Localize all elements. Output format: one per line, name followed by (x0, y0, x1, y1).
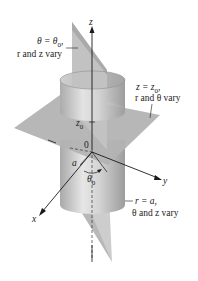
z-axis-label: z (89, 17, 93, 27)
z-plane-comma: , (158, 82, 160, 92)
theta-plane-comma: , (61, 36, 63, 46)
cylindrical-coordinates-diagram (0, 0, 198, 281)
z-plane-annotation-line2: r and θ vary (135, 93, 180, 103)
x-axis-label: x (32, 214, 36, 224)
theta-plane-annotation-line2: r and z vary (17, 49, 62, 59)
cylinder-annotation-line1: r = a, (135, 196, 157, 206)
z-axis-arrow-icon (90, 26, 95, 33)
angle-sub: 0 (92, 179, 96, 187)
z-plane-eq: z = z (136, 82, 155, 92)
z0-label: z0 (76, 118, 83, 132)
cylinder-annotation-line2: θ and z vary (132, 208, 179, 218)
radius-label: a (72, 158, 77, 168)
theta-plane-eq: θ = θ (37, 36, 58, 46)
x-axis-arrow-icon (39, 208, 46, 216)
origin-label: 0 (84, 140, 89, 150)
theta-plane-annotation-line1: θ = θ0, (37, 36, 63, 50)
angle-label: θ0 (87, 174, 95, 188)
z0-sub: 0 (80, 123, 84, 131)
y-axis-label: y (163, 176, 167, 186)
y-axis-arrow-icon (154, 175, 162, 180)
